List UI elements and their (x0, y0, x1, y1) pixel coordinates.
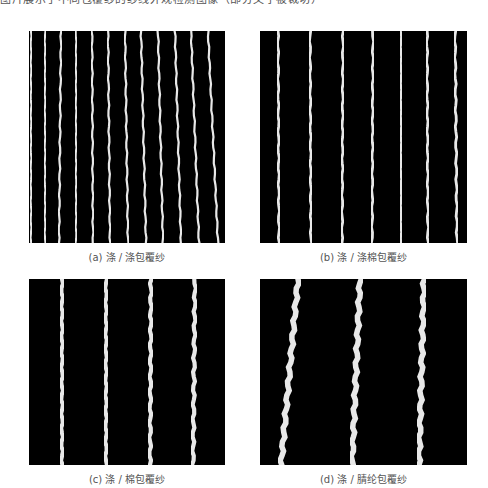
yarn-strand (455, 31, 458, 243)
yarn-strand (149, 279, 152, 465)
yarn-strand (61, 279, 63, 465)
yarn-strand (75, 31, 76, 243)
yarn-strand (92, 31, 94, 243)
caption-b: (b) 涤 / 涤棉包覆纱 (260, 249, 467, 264)
yarn-image-c (29, 279, 225, 465)
yarn-strand (278, 31, 280, 243)
yarn-strand (280, 279, 299, 465)
yarn-strand (309, 31, 311, 243)
yarn-strand (175, 31, 182, 243)
yarn-strand (351, 279, 361, 465)
yarn-strand (108, 31, 111, 243)
header-text: 图片展示了不同包覆纱的纱线外观检测图像（部分文字被裁切） (0, 0, 330, 4)
yarn-strand (141, 31, 147, 243)
yarn-strand (158, 31, 164, 243)
caption-a: (a) 涤 / 涤包覆纱 (29, 249, 225, 264)
yarn-strand (427, 31, 429, 243)
yarn-strand (125, 31, 129, 243)
yarn-image-d (260, 279, 467, 465)
yarn-strand (341, 31, 343, 243)
yarn-strand (192, 279, 196, 465)
yarn-image-b (260, 31, 467, 243)
caption-d: (d) 涤 / 腈纶包覆纱 (260, 471, 467, 486)
yarn-strand (59, 31, 62, 243)
yarn-strand (30, 31, 31, 243)
yarn-image-a (29, 31, 225, 243)
yarn-strand (105, 279, 107, 465)
yarn-strand (44, 31, 45, 243)
yarn-strand (191, 31, 200, 243)
clipped-header-text: 图片展示了不同包覆纱的纱线外观检测图像（部分文字被裁切） (0, 0, 330, 4)
yarn-strand (208, 31, 218, 243)
yarn-strand (400, 31, 401, 243)
yarn-strand (371, 31, 373, 243)
yarn-strand (418, 279, 424, 465)
caption-c: (c) 涤 / 棉包覆纱 (29, 471, 225, 486)
